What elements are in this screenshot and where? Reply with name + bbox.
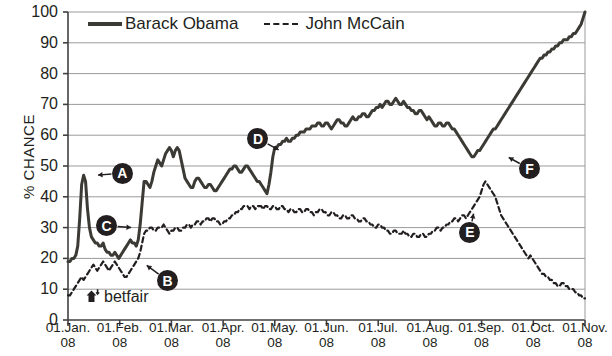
- x-tick-date: 01.Apr.: [202, 320, 245, 335]
- series-line-john-mccain: [68, 181, 585, 298]
- x-tick-date: 01.Oct.: [512, 320, 556, 335]
- annotation-marker-a: A: [112, 163, 133, 184]
- betfair-source-annotation: betfair: [84, 288, 148, 305]
- x-axis-tick-labels: 01.Jan.0801.Feb.0801.Mar.0801.Apr.0801.M…: [0, 320, 605, 356]
- legend-item-obama: Barack Obama: [88, 14, 238, 34]
- betfair-label: betfair: [104, 288, 148, 305]
- annotation-arrowhead-A: [98, 172, 103, 178]
- legend-item-mccain: John McCain: [264, 14, 404, 34]
- legend-dashed-line-swatch: [264, 23, 298, 25]
- x-tick-01Nov: 01.Nov.08: [550, 320, 612, 350]
- x-tick-date: 01.Jan.: [46, 320, 90, 335]
- annotation-arrowhead-C: [126, 224, 131, 230]
- annotation-marker-e: E: [459, 222, 480, 243]
- x-tick-date: 01.Jun.: [304, 320, 348, 335]
- legend-solid-line-swatch: [88, 22, 122, 26]
- chart-legend: Barack Obama John McCain: [88, 13, 405, 35]
- legend-label-mccain: John McCain: [305, 14, 404, 34]
- betfair-arrow-icon: [84, 288, 101, 305]
- x-tick-date: 01.Nov.: [562, 320, 608, 335]
- x-tick-date: 01.Jul.: [358, 320, 398, 335]
- legend-label-obama: Barack Obama: [125, 14, 238, 34]
- x-tick-year: 08: [550, 335, 612, 350]
- annotation-marker-b: B: [157, 270, 178, 291]
